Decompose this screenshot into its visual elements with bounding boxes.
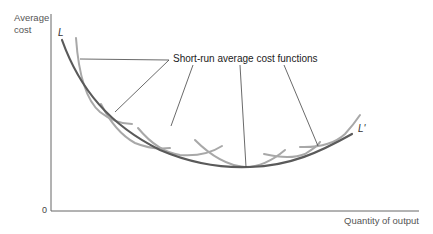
short-run-curve-6 — [300, 115, 360, 147]
short-run-curve-4 — [195, 140, 285, 167]
x-axis-label: Quantity of output — [344, 215, 419, 226]
leader-line-4 — [240, 65, 246, 167]
curve-end-label: L' — [358, 123, 365, 134]
y-axis-label: Average cost — [14, 12, 49, 36]
y-axis-label-line1: Average — [14, 12, 49, 24]
short-run-annotation: Short-run average cost functions — [173, 53, 318, 64]
leader-line-5 — [284, 65, 318, 146]
leader-line-1 — [80, 59, 169, 60]
annotation-leaders — [80, 59, 318, 167]
cost-curve-chart — [0, 0, 433, 234]
leader-line-2 — [115, 60, 169, 112]
curve-start-label: L — [58, 27, 64, 38]
leader-line-3 — [171, 65, 193, 126]
short-run-curve-3 — [138, 128, 222, 155]
y-axis-label-line2: cost — [14, 24, 49, 36]
short-run-curve-2 — [101, 104, 170, 148]
origin-label: 0 — [42, 205, 47, 215]
